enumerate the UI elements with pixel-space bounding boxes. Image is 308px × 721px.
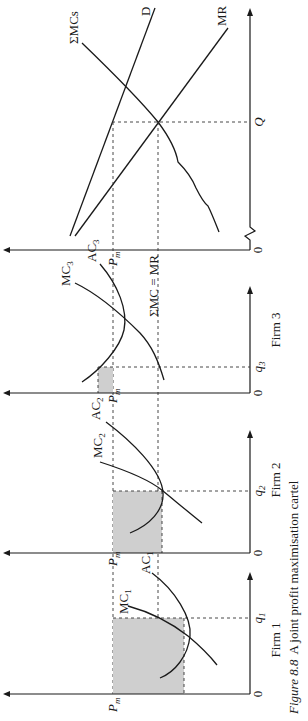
firm1-ac-label: AC1 [138,551,155,574]
market-price-axis-arrow [3,247,10,253]
firm1-panel: 0 q1 Firm 1 MC1 AC1 Pm Pm [3,551,283,713]
firm1-price-axis-arrow [3,691,10,697]
demand-label: D [138,7,153,16]
firm2-mc-label: MC2 [90,433,107,458]
firm2-price-axis-arrow [3,550,10,556]
firm3-shaded-area [98,367,113,393]
firm1-quantity-axis-arrow [247,572,253,580]
firm3-mc-label: MC3 [58,261,75,286]
firm3-price-label: Pm [105,251,122,267]
firm1-title: Firm 1 [268,622,283,657]
firm3-ac-curve [82,264,125,382]
firm3-panel: 0 q3 Firm 3 MC3 AC3 Pm [3,239,283,396]
market-quantity-axis [245,12,255,250]
market-panel: 0 ΣMCs D MR Q ΣMC = MR [3,5,266,694]
firm3-quantity-label: q3 [250,361,267,373]
firm2-quantity-axis-arrow [247,430,253,438]
firm2-quantity-label: q2 [250,485,267,497]
firm1-quantity-label: q1 [250,613,267,624]
figure-caption: Figure 8.8A joint profit maximisation ca… [286,480,301,715]
firm1-shaded-area [113,618,184,694]
equilibrium-label: ΣMC = MR [146,255,161,317]
firm1-price-label: Pm [105,697,122,713]
market-quantity-label: Q [251,117,266,127]
market-quantity-axis-arrow [247,8,253,16]
firm2-shaded-area [113,491,162,553]
firm3-title: Firm 3 [268,312,283,347]
sum-mc-curve [82,43,219,232]
firm2-panel: 0 q2 Firm 2 MC2 AC2 Pm [3,388,283,556]
cartel-diagram: 0 ΣMCs D MR Q ΣMC = MR 0 q3 Firm 3 MC3 [0,0,308,721]
firm2-title: Firm 2 [268,462,283,497]
market-origin-label: 0 [250,247,265,254]
firm3-ac-label: AC3 [84,239,101,262]
firm2-ac-label: AC2 [88,397,105,420]
firm3-origin-label: 0 [250,390,265,397]
firm3-quantity-axis-arrow [247,286,253,294]
firm3-price-axis-arrow [3,390,10,396]
mr-label: MR [214,5,229,26]
firm1-origin-label: 0 [250,691,265,698]
firm1-mc-label: MC1 [116,589,133,614]
firm2-origin-label: 0 [250,550,265,557]
sum-mc-label: ΣMCs [66,11,81,44]
